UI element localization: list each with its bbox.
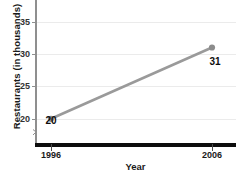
x-tick-label-2006: 2006 [192,150,232,160]
y-tick-label-30: 30 [8,49,30,59]
x-axis-line [35,143,236,147]
data-label-2006: 31 [200,56,230,67]
line-chart: Restaurants (in thousands) 35 30 25 20 2… [0,0,236,176]
x-axis-title: Year [35,161,236,172]
data-label-1996: 20 [36,115,66,126]
y-tick-label-35: 35 [8,17,30,27]
y-tick-label-25: 25 [8,81,30,91]
y-tick-label-20: 20 [8,114,30,124]
x-tick-label-1996: 1996 [31,150,71,160]
